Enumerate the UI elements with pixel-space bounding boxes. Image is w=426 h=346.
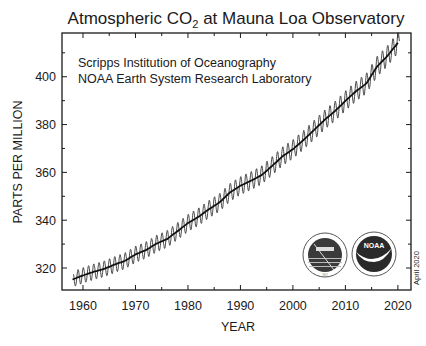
- noaa-logo: NOAA: [352, 232, 396, 276]
- x-tick-label: 2000: [279, 299, 307, 313]
- x-axis-label: YEAR: [221, 320, 255, 334]
- x-tick-label: 1970: [122, 299, 150, 313]
- scripps-logo: SIO: [303, 233, 347, 277]
- co2-chart: Atmospheric CO2 at Mauna Loa Observatory…: [0, 0, 426, 346]
- monthly-co2-line: [74, 33, 400, 286]
- annotation-noaa: NOAA Earth System Research Laboratory: [78, 72, 312, 86]
- chart-title: Atmospheric CO2 at Mauna Loa Observatory: [68, 9, 405, 30]
- y-tick-label: 360: [35, 166, 56, 180]
- x-tick-label: 1990: [227, 299, 255, 313]
- x-tick-label: 2010: [331, 299, 359, 313]
- date-stamp: April 2020: [412, 251, 421, 285]
- y-axis-ticks: 320340360380400: [35, 53, 411, 276]
- y-axis-label: PARTS PER MILLION: [11, 100, 25, 223]
- y-tick-label: 380: [35, 118, 56, 132]
- y-tick-label: 400: [35, 70, 56, 84]
- scripps-logo-text-icon: SIO: [322, 273, 328, 277]
- x-tick-label: 1960: [69, 299, 97, 313]
- annotation-scripps: Scripps Institution of Oceanography: [78, 56, 277, 70]
- x-tick-label: 2020: [384, 299, 412, 313]
- y-tick-label: 340: [35, 214, 56, 228]
- y-tick-label: 320: [35, 262, 56, 276]
- noaa-logo-text-icon: NOAA: [364, 242, 385, 249]
- x-tick-label: 1980: [174, 299, 202, 313]
